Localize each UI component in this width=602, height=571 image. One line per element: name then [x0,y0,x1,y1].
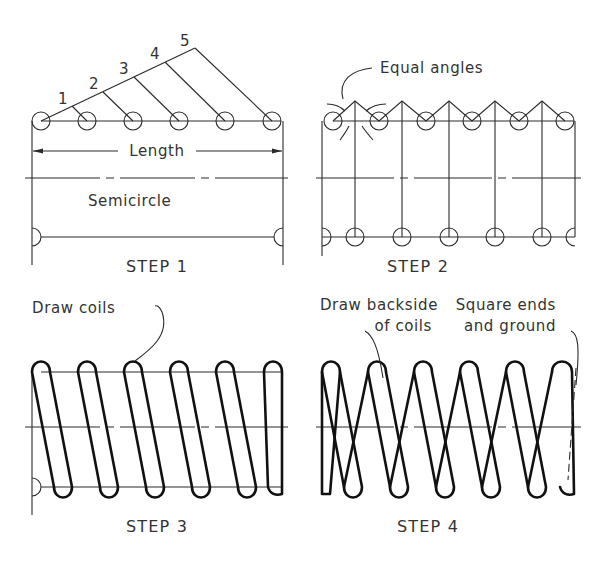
equal-angles-label: Equal angles [380,59,483,77]
step1-left-semicircle [32,228,41,246]
division-number-4: 4 [150,45,160,63]
step1-diagonal-line [41,48,195,121]
division-number-5: 5 [180,32,190,50]
length-label: Length [129,142,184,160]
step1-caption: STEP 1 [126,257,188,276]
step1-right-semicircle [274,228,283,246]
square-ends-label-line2: and ground [464,317,556,335]
draw-coils-label: Draw coils [32,299,116,317]
equal-angles-leader [342,68,372,99]
division-number-1: 1 [58,90,68,108]
step3-coils [32,362,282,498]
spring-drawing-steps: 1 2 3 4 5 Length Semicircle STEP 1 [0,0,602,571]
step3-caption: STEP 3 [126,517,188,536]
division-number-2: 2 [89,75,99,93]
step3-left-semicircle [32,478,41,496]
step2-panel: Equal angles STEP 2 [316,59,581,276]
step1-panel: 1 2 3 4 5 Length Semicircle STEP 1 [25,32,288,276]
step4-caption: STEP 4 [397,517,459,536]
semicircle-label: Semicircle [88,192,171,210]
equal-angle-arcs [327,104,386,140]
step2-caption: STEP 2 [387,257,449,276]
step3-panel: Draw coils STEP 3 [25,299,288,536]
step4-panel: Draw backside of coils Square ends and g… [316,296,581,536]
division-number-3: 3 [119,60,129,78]
square-ends-label-line1: Square ends [456,296,556,314]
draw-backside-label-line2: of coils [374,317,432,335]
draw-coils-leader [135,306,164,361]
draw-backside-label-line1: Draw backside [320,296,438,314]
